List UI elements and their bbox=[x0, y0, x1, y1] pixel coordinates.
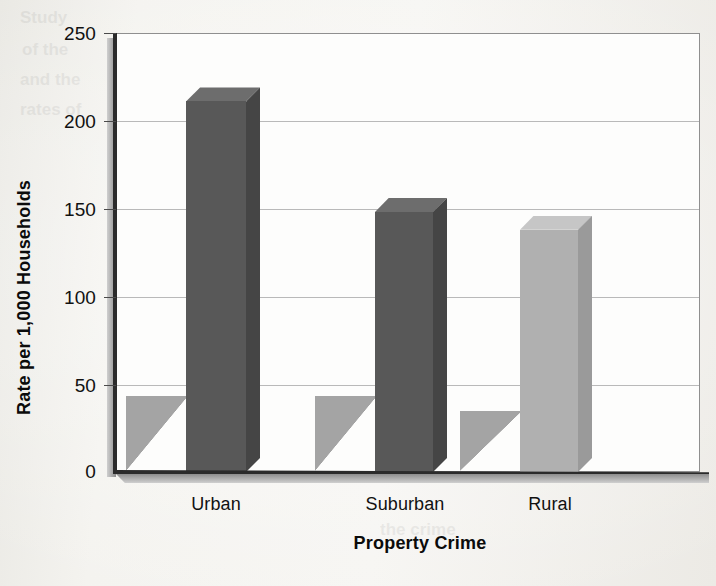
y-axis-line bbox=[113, 33, 117, 474]
bar-front-face-rural bbox=[520, 230, 578, 472]
ytick-mark-150 bbox=[104, 209, 116, 210]
ytick-label-50: 50 bbox=[38, 376, 96, 395]
bar-front-face-urban bbox=[186, 101, 246, 472]
bar-shadow-rural bbox=[460, 411, 522, 471]
ytick-mark-200 bbox=[104, 121, 116, 122]
ytick-mark-50 bbox=[104, 385, 116, 386]
bar-shadow-urban bbox=[126, 396, 188, 471]
bar-front-face-suburban bbox=[375, 212, 433, 472]
x-axis-title: Property Crime bbox=[310, 533, 530, 554]
ytick-label-100: 100 bbox=[38, 288, 96, 307]
xtick-label-urban: Urban bbox=[156, 494, 276, 515]
ytick-label-250: 250 bbox=[38, 24, 96, 43]
xtick-label-suburban: Suburban bbox=[345, 494, 465, 515]
xtick-label-rural: Rural bbox=[490, 494, 610, 515]
ytick-mark-100 bbox=[104, 297, 116, 298]
y-axis-title: Rate per 1,000 Households bbox=[14, 180, 35, 415]
bar-side-face-suburban bbox=[433, 198, 447, 472]
bar-side-face-urban bbox=[246, 87, 260, 472]
x-axis-depth bbox=[116, 474, 709, 483]
ytick-mark-250 bbox=[104, 33, 116, 34]
bar-side-face-rural bbox=[578, 216, 592, 472]
ytick-label-0: 0 bbox=[38, 462, 96, 481]
ytick-label-200: 200 bbox=[38, 112, 96, 131]
ytick-label-150: 150 bbox=[38, 200, 96, 219]
bar-shadow-suburban bbox=[315, 396, 377, 471]
bar-chart: 250 200 150 100 50 0 Urban Suburban Rura… bbox=[0, 0, 716, 586]
